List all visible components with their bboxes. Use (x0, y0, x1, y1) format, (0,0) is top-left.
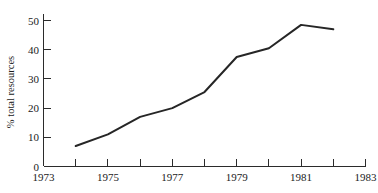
y-tick-label-40: 40 (28, 44, 40, 56)
y-tick-label-10: 10 (28, 131, 40, 143)
y-axis-title: % total resources (5, 56, 16, 128)
y-tick-label-50: 50 (28, 15, 40, 27)
x-tick-label-1973: 1973 (33, 171, 56, 183)
line-chart: 50 40 30 20 10 0 1973 1975 1977 1979 198… (0, 0, 378, 193)
y-tick-label-30: 30 (28, 73, 40, 85)
x-tick-label-1975: 1975 (97, 171, 120, 183)
data-series-line (76, 25, 334, 146)
x-tick-label-1979: 1979 (226, 171, 249, 183)
chart-canvas: 50 40 30 20 10 0 1973 1975 1977 1979 198… (0, 0, 378, 193)
y-tick-label-20: 20 (28, 102, 40, 114)
x-tick-label-1977: 1977 (161, 171, 184, 183)
x-tick-label-1981: 1981 (290, 171, 312, 183)
x-tick-label-1983: 1983 (355, 171, 378, 183)
